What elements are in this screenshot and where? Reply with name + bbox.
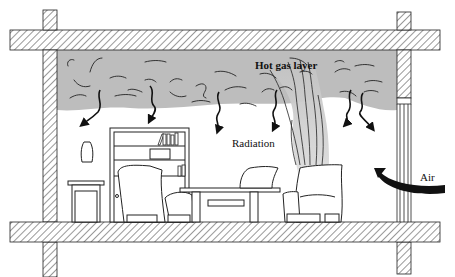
floor-slab <box>10 222 440 242</box>
ceiling-slab <box>10 30 440 50</box>
right-wall-upper <box>397 12 411 30</box>
left-wall-lower <box>43 242 57 277</box>
hot-gas-layer-label: Hot gas layer <box>255 59 317 71</box>
left-wall <box>43 50 57 222</box>
coffee-table <box>180 188 280 222</box>
fire-diagram <box>0 0 455 277</box>
left-wall-upper <box>43 10 57 30</box>
side-table-with-vase <box>68 142 104 222</box>
armchair-middle <box>240 167 278 189</box>
right-wall-lower <box>397 242 411 274</box>
doorway-opening <box>397 98 411 222</box>
radiation-label: Radiation <box>232 137 275 149</box>
armchair-burning <box>283 165 342 222</box>
right-wall <box>397 50 411 98</box>
air-label: Air <box>420 171 435 183</box>
hot-gas-layer <box>57 50 397 110</box>
